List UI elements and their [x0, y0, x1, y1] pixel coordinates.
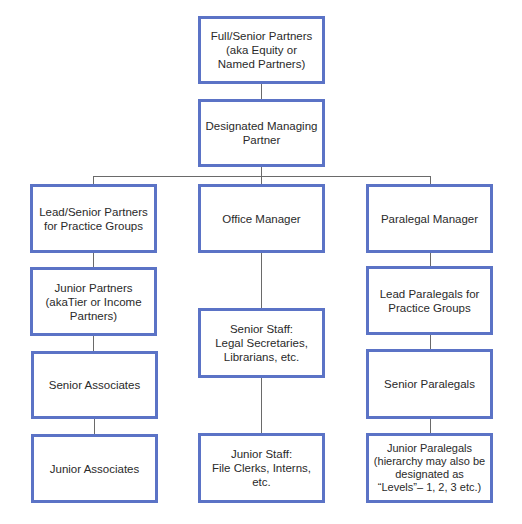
- connector-left-1-2: [93, 252, 94, 267]
- connector-left-2-3: [93, 335, 94, 351]
- connector-bus-to-left: [93, 176, 94, 184]
- node-senior-associates: Senior Associates: [31, 351, 158, 419]
- connector-middle-2-3: [261, 377, 262, 433]
- node-designated-managing-partner: Designated Managing Partner: [198, 99, 325, 167]
- node-lead-senior-partners: Lead/Senior Partners for Practice Groups: [30, 184, 157, 253]
- node-senior-staff: Senior Staff: Legal Secretaries, Librari…: [198, 308, 325, 378]
- connector-right-1-2: [430, 252, 431, 266]
- node-paralegal-manager: Paralegal Manager: [366, 184, 493, 253]
- node-junior-partners: Junior Partners (akaTier or Income Partn…: [30, 267, 157, 336]
- node-junior-staff: Junior Staff: File Clerks, Interns, etc.: [198, 433, 325, 503]
- node-junior-paralegals: Junior Paralegals (hierarchy may also be…: [366, 433, 493, 503]
- node-lead-paralegals: Lead Paralegals for Practice Groups: [366, 266, 493, 335]
- connector-right-3-4: [430, 418, 431, 433]
- connector-middle-1-2: [261, 252, 262, 308]
- node-office-manager: Office Manager: [198, 184, 325, 253]
- connector-right-2-3: [430, 334, 431, 349]
- node-junior-associates: Junior Associates: [31, 434, 158, 503]
- connector-top-to-managing: [261, 83, 262, 99]
- connector-bus-to-middle: [261, 176, 262, 184]
- connector-managing-to-bus: [261, 166, 262, 176]
- connector-left-3-4: [94, 418, 95, 434]
- node-full-senior-partners: Full/Senior Partners (aka Equity or Name…: [198, 16, 325, 84]
- node-senior-paralegals: Senior Paralegals: [366, 349, 493, 419]
- connector-bus-to-right: [430, 176, 431, 184]
